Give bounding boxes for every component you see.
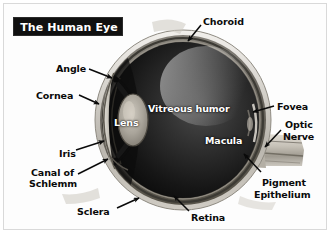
label-iris: Iris (59, 148, 76, 159)
label-optic-nerve-line1: Optic (285, 119, 313, 130)
label-optic-nerve-line2: Nerve (283, 131, 314, 142)
eye-diagram-page: The Human Eye Choroid Angle Cornea Iris … (0, 0, 331, 234)
label-angle: Angle (56, 63, 86, 74)
label-fovea: Fovea (277, 101, 308, 112)
label-canal-of-schlemm-line1: Canal of (31, 167, 74, 178)
label-choroid: Choroid (203, 16, 244, 27)
label-retina: Retina (191, 212, 225, 223)
label-lens: Lens (114, 117, 139, 128)
label-sclera: Sclera (77, 206, 110, 217)
label-vitreous-humor: Vitreous humor (148, 103, 230, 114)
sclera-arrow (117, 198, 139, 208)
figure-title: The Human Eye (14, 18, 124, 37)
label-macula: Macula (205, 135, 242, 146)
canal-arrow (78, 159, 108, 174)
cornea-arrow (79, 95, 99, 104)
label-pigment-epithelium-line1: Pigment (262, 177, 306, 188)
title-banner: The Human Eye (13, 17, 123, 36)
label-canal-of-schlemm-line2: Schlemm (29, 178, 77, 189)
label-pigment-epithelium-line2: Epithelium (254, 189, 310, 200)
label-cornea: Cornea (36, 90, 73, 101)
